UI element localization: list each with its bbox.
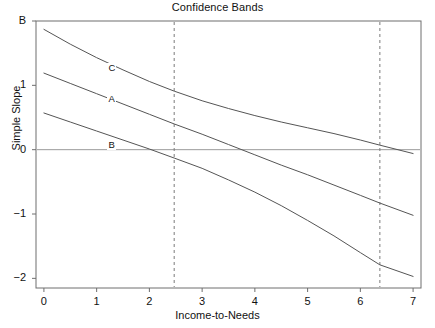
series-label-a: A: [107, 94, 115, 104]
x-tick-label: 0: [33, 295, 55, 307]
y-tick-label: −2: [4, 271, 26, 283]
x-tick-label: 2: [138, 295, 160, 307]
x-tick-label: 1: [86, 295, 108, 307]
series-curve-c: [44, 29, 413, 153]
axes-frame: [36, 21, 421, 288]
tick-marks: [32, 21, 413, 292]
x-tick-label: 7: [402, 295, 424, 307]
y-tick-label: −1: [4, 207, 26, 219]
x-tick-label: 5: [297, 295, 319, 307]
region-of-significance-lines: [174, 22, 380, 287]
x-tick-label: 3: [191, 295, 213, 307]
y-tick-label: B: [4, 14, 26, 26]
series-curve-a: [44, 73, 413, 215]
series-label-c: C: [107, 63, 116, 73]
series-curves: [44, 29, 413, 276]
y-tick-label: 1: [4, 78, 26, 90]
x-tick-label: 4: [244, 295, 266, 307]
series-label-b: B: [107, 140, 115, 150]
y-tick-label: 0: [4, 143, 26, 155]
chart-figure: Confidence Bands Simple Slope Income-to-…: [0, 0, 435, 328]
x-tick-label: 6: [349, 295, 371, 307]
plot-area: [0, 0, 435, 328]
